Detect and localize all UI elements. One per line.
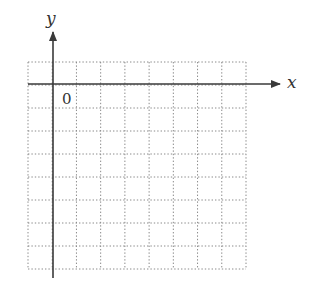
grid xyxy=(28,62,246,269)
x-axis-label: x xyxy=(287,72,297,92)
y-axis-label: y xyxy=(45,8,56,28)
origin-label: 0 xyxy=(62,90,72,108)
coordinate-plane: x y 0 xyxy=(0,0,310,293)
